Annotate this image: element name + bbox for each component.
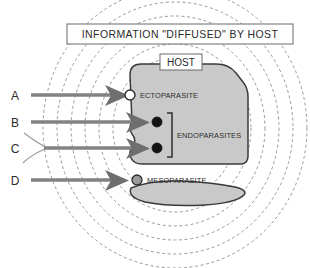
ectoparasite-marker-icon <box>125 90 135 100</box>
ectoparasite-label: ECTOPARASITE <box>140 91 198 100</box>
arrow-c-flare-upper-icon <box>24 133 45 147</box>
endoparasites-label: ENDOPARASITES <box>177 131 241 140</box>
figure-title: INFORMATION "DIFFUSED" BY HOST <box>82 28 279 40</box>
arrow-b-group <box>31 112 150 133</box>
endoparasite-marker-2-icon <box>152 143 162 153</box>
mesoparasite-marker-icon <box>132 175 142 185</box>
arrow-label-c: C <box>11 142 20 156</box>
mesoparasite-label: MESOPARASITE <box>147 176 207 185</box>
arrow-label-d: D <box>11 174 20 188</box>
arrow-label-a: A <box>11 89 19 103</box>
arrow-label-b: B <box>11 116 19 130</box>
arrow-c-flare-lower-icon <box>23 149 45 163</box>
endoparasite-marker-1-icon <box>152 117 162 127</box>
arrow-a-group <box>31 85 129 106</box>
host-label: HOST <box>167 57 195 68</box>
diffusion-diagram: A B C D ECTOPARASITE ENDOPARASITES MESOP… <box>0 0 310 268</box>
